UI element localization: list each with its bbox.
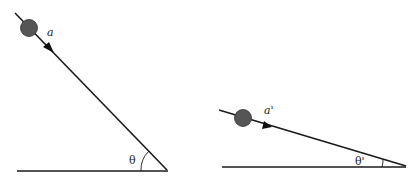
- angle-label: θ: [129, 154, 136, 167]
- acceleration-label: a: [47, 26, 54, 39]
- steep-incline-diagram: a θ: [15, 13, 168, 171]
- ball: [21, 20, 38, 37]
- angle-label: θ': [355, 155, 365, 168]
- figure-svg: a θ a' θ': [0, 0, 420, 181]
- incline-line: [15, 13, 167, 170]
- shallow-incline-diagram: a' θ': [219, 104, 406, 168]
- acceleration-label: a': [264, 104, 274, 117]
- ball: [235, 110, 252, 127]
- incline-diagram-figure: a θ a' θ': [0, 0, 420, 181]
- angle-arc: [141, 151, 149, 171]
- angle-arc: [382, 159, 383, 167]
